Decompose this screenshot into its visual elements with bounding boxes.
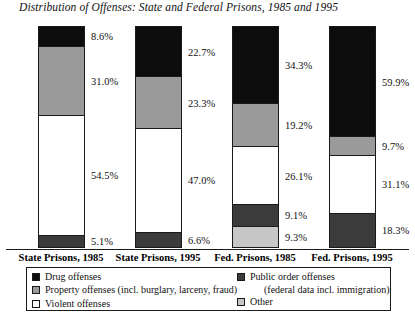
stacked-bar: 22.7%23.3%47.0%6.6%	[135, 26, 182, 248]
segment-value-label: 26.1%	[285, 170, 312, 181]
bar-segment-drug: 22.7%	[136, 27, 181, 77]
segment-value-label: 18.3%	[382, 225, 409, 236]
segment-value-label: 8.6%	[91, 31, 113, 42]
legend-swatch-other	[237, 298, 245, 306]
bar-segment-drug: 59.9%	[330, 27, 375, 137]
segment-value-label: 23.3%	[188, 97, 215, 108]
bar-segment-property: 23.3%	[136, 77, 181, 129]
bar-segment-public_order: 6.6%	[136, 233, 181, 247]
legend-column-right: Public order offenses(federal data incl.…	[237, 270, 390, 309]
legend-subnote: (federal data incl. immigration)	[237, 284, 390, 296]
legend-label: Violent offenses	[45, 298, 110, 310]
bar-segment-drug: 34.3%	[233, 27, 278, 104]
chart-legend: Drug offensesProperty offenses (incl. bu…	[26, 267, 391, 311]
legend-swatch-violent	[32, 300, 40, 308]
segment-value-label: 59.9%	[382, 76, 409, 87]
category-label: State Prisons, 1995	[103, 252, 213, 263]
legend-label: Drug offenses	[45, 271, 101, 283]
bar-segment-violent: 26.1%	[233, 147, 278, 206]
segment-value-label: 9.7%	[382, 141, 404, 152]
bar-segment-violent: 47.0%	[136, 129, 181, 232]
segment-value-label: 19.2%	[285, 119, 312, 130]
segment-value-label: 31.1%	[382, 179, 409, 190]
legend-label: Other	[250, 296, 273, 308]
legend-item: Property offenses (incl. burglary, larce…	[32, 284, 237, 297]
axis-baseline	[6, 249, 409, 250]
bar-segment-property: 31.0%	[39, 47, 84, 116]
chart-root: Distribution of Offenses: State and Fede…	[0, 0, 415, 322]
segment-value-label: 47.0%	[188, 175, 215, 186]
legend-label: Property offenses (incl. burglary, larce…	[45, 284, 237, 296]
chart-title: Distribution of Offenses: State and Fede…	[19, 1, 338, 13]
stacked-bar: 8.6%31.0%54.5%5.1%	[38, 26, 85, 248]
segment-value-label: 9.1%	[285, 210, 307, 221]
stacked-bar: 34.3%19.2%26.1%9.1%9.3%	[232, 26, 279, 248]
legend-item: Drug offenses	[32, 270, 237, 283]
segment-value-label: 22.7%	[188, 46, 215, 57]
category-label: Fed. Prisons, 1985	[200, 252, 310, 263]
stacked-bar: 59.9%9.7%31.1%18.3%	[329, 26, 376, 248]
legend-item: Public order offenses	[237, 270, 390, 283]
bar-segment-property: 19.2%	[233, 104, 278, 147]
segment-value-label: 5.1%	[91, 236, 113, 247]
bar-segment-other: 9.3%	[233, 227, 278, 248]
category-label: State Prisons, 1985	[6, 252, 116, 263]
bar-segment-property: 9.7%	[330, 137, 375, 156]
legend-column-left: Drug offensesProperty offenses (incl. bu…	[32, 270, 237, 311]
bar-segment-public_order: 9.1%	[233, 205, 278, 226]
bar-segment-drug: 8.6%	[39, 27, 84, 47]
segment-value-label: 54.5%	[91, 170, 118, 181]
legend-swatch-drug	[32, 273, 40, 281]
bar-segment-public_order: 18.3%	[330, 214, 375, 247]
legend-swatch-property	[32, 286, 40, 294]
legend-item: Other	[237, 296, 390, 309]
segment-value-label: 31.0%	[91, 75, 118, 86]
plot-area: 8.6%31.0%54.5%5.1%22.7%23.3%47.0%6.6%34.…	[0, 26, 415, 250]
bar-segment-violent: 54.5%	[39, 116, 84, 236]
segment-value-label: 6.6%	[188, 234, 210, 245]
category-label: Fed. Prisons, 1995	[297, 252, 407, 263]
legend-item: Violent offenses	[32, 297, 237, 310]
legend-label: Public order offenses	[250, 271, 335, 283]
bar-segment-violent: 31.1%	[330, 156, 375, 214]
segment-value-label: 34.3%	[285, 59, 312, 70]
bar-segment-public_order: 5.1%	[39, 236, 84, 247]
segment-value-label: 9.3%	[285, 231, 307, 242]
legend-swatch-public_order	[237, 273, 245, 281]
